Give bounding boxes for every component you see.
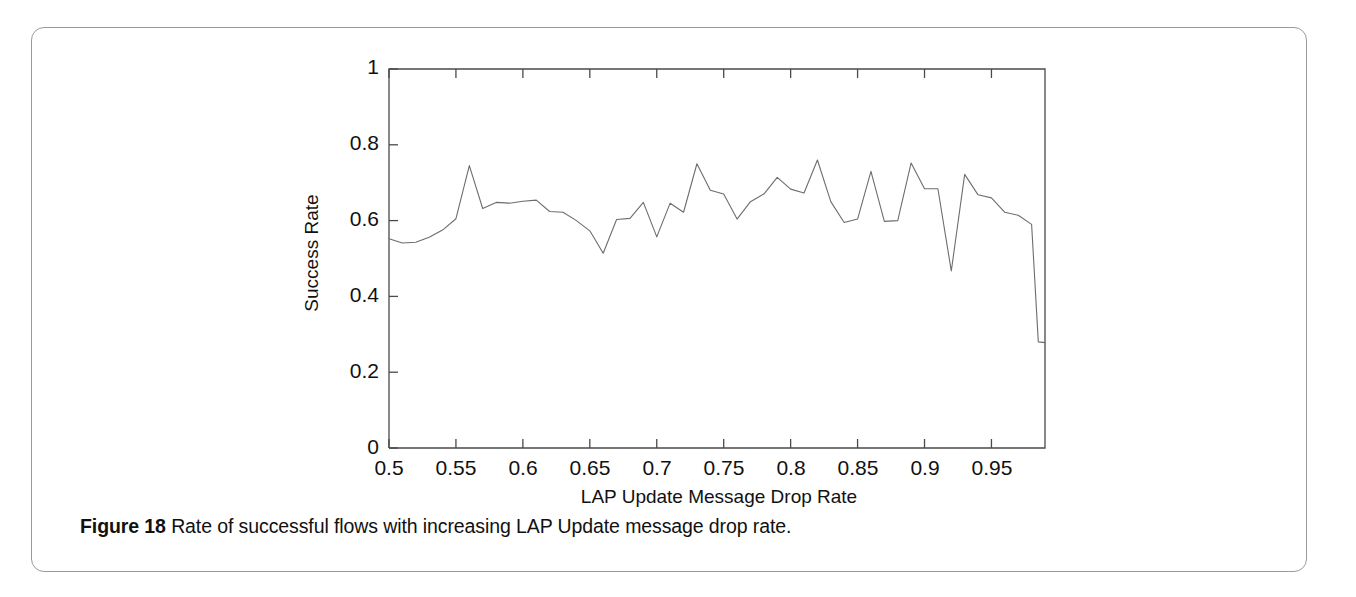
figure-caption: Figure 18 Rate of successful flows with … [80,515,1230,538]
ytick-label-0_6: 0.6 [324,207,379,231]
ytick-label-0_4: 0.4 [324,283,379,307]
xtick-label-0_95: 0.95 [952,456,1032,480]
figure-caption-text: Rate of successful flows with increasing… [171,515,791,537]
success-rate-line [389,160,1045,343]
figure-caption-number: Figure 18 [80,515,166,537]
figure-frame: 0 0.2 0.4 0.6 0.8 1 0.5 0.55 0.6 0.65 0.… [31,27,1307,572]
chart-ticks [389,69,991,448]
page-canvas: 0 0.2 0.4 0.6 0.8 1 0.5 0.55 0.6 0.65 0.… [0,0,1356,597]
ytick-label-1: 1 [324,55,379,79]
ytick-label-0_2: 0.2 [324,359,379,383]
ytick-label-0_8: 0.8 [324,131,379,155]
chart-axes [389,69,1045,448]
axis-box [389,69,1045,448]
y-axis-title: Success Rate [301,153,323,353]
x-axis-title: LAP Update Message Drop Rate [389,486,1049,508]
chart-plot-area: 0 0.2 0.4 0.6 0.8 1 0.5 0.55 0.6 0.65 0.… [32,28,1308,573]
